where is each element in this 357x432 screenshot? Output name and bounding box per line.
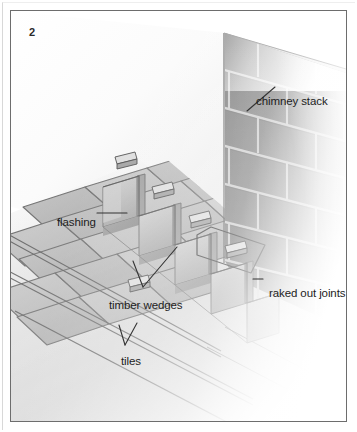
figure-container: 2 chimney stack flashing timber wedges t…	[0, 0, 357, 432]
label-chimney-stack: chimney stack	[256, 95, 328, 107]
label-raked-out-joints: raked out joints	[269, 287, 345, 299]
label-tiles: tiles	[121, 355, 141, 367]
figure-frame: 2 chimney stack flashing timber wedges t…	[10, 10, 347, 422]
label-flashing: flashing	[57, 216, 96, 228]
figure-number: 2	[29, 27, 35, 38]
label-timber-wedges: timber wedges	[109, 299, 182, 311]
